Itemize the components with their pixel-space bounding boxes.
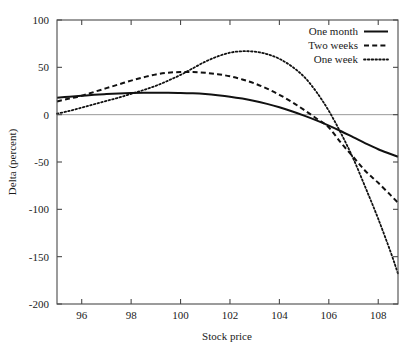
x-tick-label-100: 100 — [172, 309, 189, 321]
x-tick-label-106: 106 — [321, 309, 338, 321]
legend-label-one-week: One week — [314, 53, 359, 65]
y-tick-label--200: -200 — [29, 298, 50, 310]
x-axis-title: Stock price — [202, 330, 252, 342]
x-tick-label-96: 96 — [76, 309, 88, 321]
y-tick-label--100: -100 — [29, 203, 50, 215]
x-tick-label-108: 108 — [370, 309, 387, 321]
chart-legend: One month Two weeks One week — [308, 25, 388, 65]
x-tick-label-104: 104 — [271, 309, 288, 321]
y-tick-label-50: 50 — [38, 61, 50, 73]
x-tick-label-98: 98 — [126, 309, 138, 321]
chart-figure: 9698100102104106108 100500-50-100-150-20… — [0, 0, 416, 356]
y-tick-label-0: 0 — [44, 109, 50, 121]
y-tick-label--50: -50 — [34, 156, 49, 168]
y-tick-label-100: 100 — [33, 14, 50, 26]
legend-label-one-month: One month — [309, 25, 359, 37]
x-tick-label-102: 102 — [222, 309, 239, 321]
delta-vs-stock-price-chart: 9698100102104106108 100500-50-100-150-20… — [0, 0, 416, 356]
y-tick-label--150: -150 — [29, 251, 50, 263]
legend-label-two-weeks: Two weeks — [308, 39, 358, 51]
y-axis-title: Delta (percent) — [6, 129, 19, 196]
